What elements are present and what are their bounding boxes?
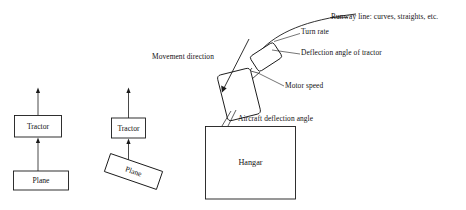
- turn-rate-annotation: Turn rate: [301, 28, 329, 36]
- turn-rate-leader: [274, 34, 300, 42]
- tractor-box-right-label: Tractor: [111, 118, 146, 138]
- hangar-box-label: Hangar: [205, 126, 296, 199]
- right-force-arrow-up: [126, 88, 130, 119]
- plane-box-left-label: Plane: [13, 171, 69, 190]
- tractor-body-tilted: [249, 42, 282, 72]
- left-coupling-arrow: [36, 138, 40, 172]
- deflection-angle-of-tractor-annotation: Deflection angle of tractor: [301, 49, 382, 57]
- diagram-canvas: Tractor Plane Tractor Plane Hangar Runwa…: [0, 0, 466, 210]
- motor-speed-leader: [258, 73, 284, 86]
- motor-speed-annotation: Motor speed: [285, 82, 323, 90]
- movement-direction-annotation: Movement direction: [152, 53, 214, 61]
- left-force-arrow-up: [36, 88, 40, 116]
- runway-line-annotation: Runway line: curves, straights, etc.: [331, 13, 438, 21]
- tractor-box-left-label: Tractor: [14, 115, 62, 137]
- aircraft-deflection-angle-annotation: Aircraft deflection angle: [238, 115, 313, 123]
